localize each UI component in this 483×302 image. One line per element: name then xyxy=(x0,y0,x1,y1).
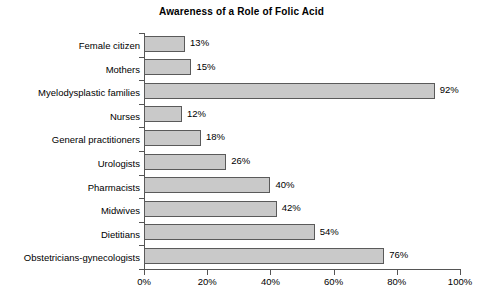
bar-midwives[interactable] xyxy=(144,201,277,217)
bar-row: 40% xyxy=(144,175,460,199)
bar-nurses[interactable] xyxy=(144,106,182,122)
bar-value-label: 15% xyxy=(196,58,215,76)
bar-mothers[interactable] xyxy=(144,59,191,75)
bar-value-label: 18% xyxy=(206,128,225,146)
category-label-pharmacists: Pharmacists xyxy=(0,177,140,198)
bar-row: 54% xyxy=(144,222,460,246)
bar-myelodysplastic-families[interactable] xyxy=(144,83,435,99)
bar-obstetricians-gynecologists[interactable] xyxy=(144,248,384,264)
category-tick xyxy=(139,245,145,246)
value-tick-label: 80% xyxy=(377,276,417,287)
value-tick xyxy=(460,270,461,275)
bar-row: 13% xyxy=(144,33,460,57)
category-tick xyxy=(139,198,145,199)
category-label-female-citizen: Female citizen xyxy=(0,35,140,56)
category-tick xyxy=(139,151,145,152)
value-tick-label: 60% xyxy=(314,276,354,287)
bar-value-label: 42% xyxy=(282,199,301,217)
bar-urologists[interactable] xyxy=(144,154,226,170)
category-tick xyxy=(139,175,145,176)
category-label-dietitians: Dietitians xyxy=(0,224,140,245)
bar-value-label: 92% xyxy=(440,81,459,99)
value-tick xyxy=(144,270,145,275)
value-tick-label: 0% xyxy=(124,276,164,287)
category-tick xyxy=(139,104,145,105)
bar-value-label: 13% xyxy=(190,34,209,52)
category-label-midwives: Midwives xyxy=(0,200,140,221)
bar-value-label: 54% xyxy=(320,223,339,241)
category-axis-labels: Female citizenMothersMyelodysplastic fam… xyxy=(0,33,140,269)
value-tick xyxy=(334,270,335,275)
bar-row: 15% xyxy=(144,57,460,81)
category-tick xyxy=(139,127,145,128)
bar-dietitians[interactable] xyxy=(144,224,315,240)
chart-title: Awareness of a Role of Folic Acid xyxy=(0,6,483,17)
category-label-mothers: Mothers xyxy=(0,59,140,80)
value-axis-line xyxy=(144,269,461,270)
bar-female-citizen[interactable] xyxy=(144,36,185,52)
bar-row: 18% xyxy=(144,127,460,151)
bar-pharmacists[interactable] xyxy=(144,177,270,193)
category-label-obstetricians-gynecologists: Obstetricians-gynecologists xyxy=(0,247,140,268)
category-label-nurses: Nurses xyxy=(0,106,140,127)
value-tick xyxy=(207,270,208,275)
bar-row: 42% xyxy=(144,198,460,222)
category-label-myelodysplastic-families: Myelodysplastic families xyxy=(0,82,140,103)
bar-row: 76% xyxy=(144,245,460,269)
value-tick xyxy=(270,270,271,275)
bar-value-label: 76% xyxy=(389,246,408,264)
bar-row: 12% xyxy=(144,104,460,128)
bar-value-label: 40% xyxy=(275,176,294,194)
value-tick-label: 40% xyxy=(250,276,290,287)
bar-value-label: 12% xyxy=(187,105,206,123)
category-tick xyxy=(139,222,145,223)
bar-value-label: 26% xyxy=(231,152,250,170)
category-tick xyxy=(139,80,145,81)
bar-row: 26% xyxy=(144,151,460,175)
bar-row: 92% xyxy=(144,80,460,104)
category-tick xyxy=(139,33,145,34)
category-label-general-practitioners: General practitioners xyxy=(0,129,140,150)
bar-general-practitioners[interactable] xyxy=(144,130,201,146)
category-label-urologists: Urologists xyxy=(0,153,140,174)
plot-area: 13%15%92%12%18%26%40%42%54%76% xyxy=(144,33,460,269)
value-tick-label: 100% xyxy=(440,276,480,287)
value-tick-label: 20% xyxy=(187,276,227,287)
bar-chart: Awareness of a Role of Folic Acid Female… xyxy=(0,0,483,302)
category-tick xyxy=(139,57,145,58)
value-tick xyxy=(397,270,398,275)
